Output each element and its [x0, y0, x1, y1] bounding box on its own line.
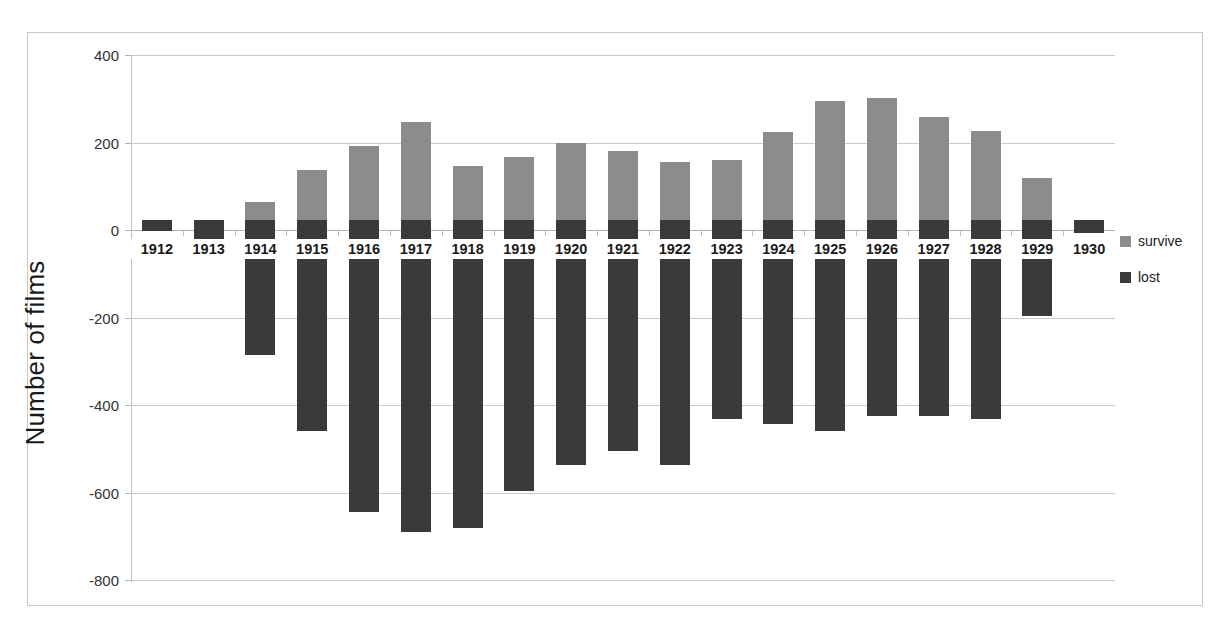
bar-group[interactable] — [390, 23, 442, 583]
bar-group[interactable] — [908, 23, 960, 583]
x-axis-label: 1914 — [244, 241, 276, 257]
bar-segment-survive[interactable] — [349, 146, 379, 230]
x-axis-label: 1925 — [814, 241, 846, 257]
bar-segment-survive[interactable] — [867, 98, 897, 230]
legend-swatch-icon — [1120, 272, 1131, 283]
bar-segment-survive[interactable] — [763, 132, 793, 230]
y-tick-label: -800 — [89, 572, 119, 589]
bar-group[interactable] — [701, 23, 753, 583]
bar-segment-survive[interactable] — [971, 131, 1001, 230]
bar-group[interactable] — [1011, 23, 1063, 583]
x-axis-label: 1923 — [710, 241, 742, 257]
bar-segment-lost[interactable] — [1074, 220, 1104, 233]
bar-segment-lost[interactable] — [349, 220, 379, 512]
x-axis-label: 1920 — [555, 241, 587, 257]
legend-label: survive — [1138, 233, 1182, 249]
x-axis-label: 1929 — [1021, 241, 1053, 257]
bar-group[interactable] — [442, 23, 494, 583]
x-axis-label: 1919 — [503, 241, 535, 257]
x-axis-label: 1928 — [969, 241, 1001, 257]
legend-swatch-icon — [1120, 236, 1131, 247]
bar-group[interactable] — [131, 23, 183, 583]
x-axis-label: 1922 — [659, 241, 691, 257]
plot-area: 4002000-200-400-600-800 1912191319141915… — [131, 23, 1115, 583]
chart-legend: survivelost — [1120, 233, 1182, 305]
y-tick-label: -200 — [89, 309, 119, 326]
bar-segment-survive[interactable] — [401, 122, 431, 231]
bar-segment-survive[interactable] — [556, 143, 586, 230]
bar-group[interactable] — [752, 23, 804, 583]
chart-frame: Number of films 4002000-200-400-600-800 … — [27, 32, 1203, 606]
x-axis-label: 1930 — [1073, 241, 1105, 257]
bar-group[interactable] — [856, 23, 908, 583]
bar-group[interactable] — [235, 23, 287, 583]
x-axis-label: 1915 — [296, 241, 328, 257]
x-axis-label: 1924 — [762, 241, 794, 257]
legend-label: lost — [1138, 269, 1160, 285]
bar-group[interactable] — [545, 23, 597, 583]
bar-group[interactable] — [183, 23, 235, 583]
bar-segment-lost[interactable] — [401, 220, 431, 532]
bar-group[interactable] — [1063, 23, 1115, 583]
y-tick-label: -400 — [89, 397, 119, 414]
y-tick-label: 200 — [94, 134, 119, 151]
bars-layer — [131, 23, 1115, 583]
bar-group[interactable] — [286, 23, 338, 583]
bar-group[interactable] — [597, 23, 649, 583]
legend-item-survive[interactable]: survive — [1120, 233, 1182, 249]
x-axis-label: 1916 — [348, 241, 380, 257]
x-axis-label: 1912 — [141, 241, 173, 257]
bar-segment-lost[interactable] — [453, 220, 483, 528]
x-axis-label: 1913 — [193, 241, 225, 257]
x-axis-label: 1926 — [866, 241, 898, 257]
x-axis-label: 1921 — [607, 241, 639, 257]
bar-segment-lost[interactable] — [504, 220, 534, 491]
bar-segment-survive[interactable] — [815, 101, 845, 230]
bar-segment-survive[interactable] — [919, 117, 949, 230]
bar-group[interactable] — [804, 23, 856, 583]
x-axis-label: 1918 — [451, 241, 483, 257]
bar-group[interactable] — [960, 23, 1012, 583]
bar-segment-lost[interactable] — [1022, 220, 1052, 316]
bar-segment-lost[interactable] — [142, 220, 172, 231]
bar-group[interactable] — [338, 23, 390, 583]
bar-segment-survive[interactable] — [608, 151, 638, 230]
bar-group[interactable] — [649, 23, 701, 583]
x-axis-label: 1927 — [918, 241, 950, 257]
x-axis-label: 1917 — [400, 241, 432, 257]
y-tick-label: 400 — [94, 47, 119, 64]
legend-item-lost[interactable]: lost — [1120, 269, 1182, 285]
y-axis-title: Number of films — [20, 193, 51, 513]
y-tick-label: 0 — [111, 222, 119, 239]
bar-group[interactable] — [494, 23, 546, 583]
bar-segment-lost[interactable] — [194, 220, 224, 240]
y-tick-label: -600 — [89, 484, 119, 501]
